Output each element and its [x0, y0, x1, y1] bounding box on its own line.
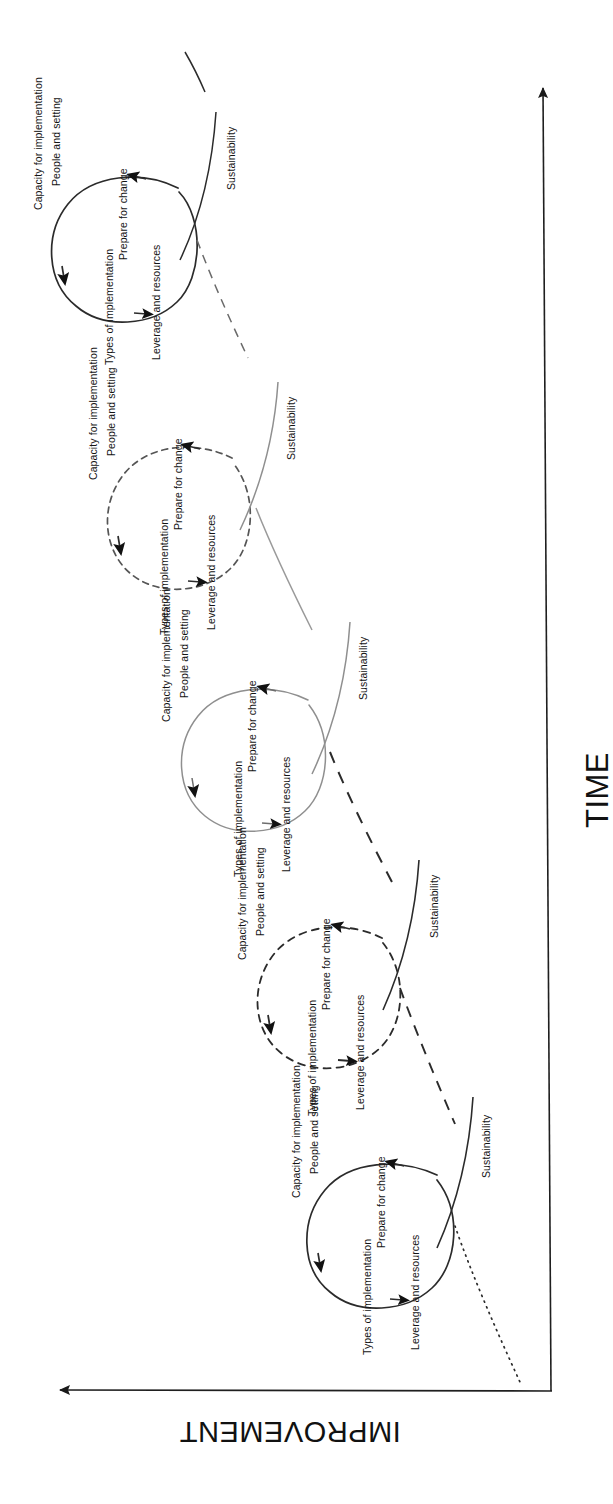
cycle-2-label-leverage: Leverage and resources: [205, 515, 217, 630]
cycle-1-sustainability-stub: [185, 52, 205, 92]
cycle-3-label-people: People and setting: [178, 609, 190, 698]
cycle-2-label-prepare: Prepare for change: [172, 438, 184, 530]
improvement-axis-line: [60, 1390, 552, 1391]
cycle-4-label-prepare: Prepare for change: [320, 918, 332, 1010]
cycle-5-sustainability-dotted-tail: [455, 1226, 520, 1382]
cycle-1-arrow-bottom: [134, 313, 147, 314]
cycle-4-label-leverage: Leverage and resources: [354, 995, 366, 1110]
cycle-2-label-sustainability: Sustainability: [285, 397, 297, 460]
cycle-1-arrow-left: [62, 266, 64, 278]
cycle-4-label-people: People and setting: [254, 847, 266, 936]
cycle-4-label-sustainability: Sustainability: [428, 875, 440, 938]
cycle-4-sustainability-line: [383, 860, 419, 1010]
cycle-3-arrow-left: [192, 778, 194, 790]
axis-group: [60, 88, 552, 1391]
cycle-3-sustainability-dashed-tail: [330, 752, 393, 884]
cycle-5-label-prepare: Prepare for change: [375, 1156, 387, 1248]
cycle-5-label-capacity: Capacity for implementation: [290, 1065, 302, 1198]
cycle-1-label-people: People and setting: [50, 97, 62, 186]
cycle-2-label-people: People and setting: [105, 367, 117, 456]
cycle-1-sustainability-dashed-tail: [197, 240, 248, 358]
cycle-5-arrow-bottom: [390, 1299, 403, 1300]
cycle-2-label-capacity: Capacity for implementation: [87, 347, 99, 480]
cycle-1-label-sustainability: Sustainability: [225, 127, 237, 190]
cycle-4-arrow-bottom: [338, 1060, 351, 1061]
cycle-5-label-types: Types of implementation: [361, 1239, 373, 1355]
cycle-4-arrow-left: [268, 1015, 270, 1027]
cycle-3-sustainability-line: [312, 622, 350, 774]
axis-label-time: TIME: [580, 752, 613, 828]
cycle-1-label-leverage: Leverage and resources: [150, 245, 162, 360]
cycle-4-sustainability-dashed-tail: [400, 988, 455, 1124]
cycle-2-arrow-bottom: [188, 581, 201, 582]
cycle-2-sustainability-line: [240, 382, 278, 530]
cycle-3-label-prepare: Prepare for change: [246, 680, 258, 772]
cycle-3-arrow-bottom: [262, 823, 275, 824]
cycle-3-label-capacity: Capacity for implementation: [160, 589, 172, 722]
cycle-5-label-sustainability: Sustainability: [480, 1115, 492, 1178]
cycle-5-arrow-left: [318, 1253, 320, 1265]
cycle-4-label-capacity: Capacity for implementation: [236, 827, 248, 960]
cycle-1-label-types: Types of implementation: [103, 249, 115, 365]
axis-label-improvement: IMPROVEMENT: [160, 1415, 420, 1448]
cycle-1-sustainability-line: [180, 112, 216, 260]
cycle-2-arrow-left: [118, 536, 120, 548]
cycle-1-label-prepare: Prepare for change: [117, 168, 129, 260]
cycle-3-label-leverage: Leverage and resources: [280, 757, 292, 872]
cycle-5-label-people: People and setting: [308, 1085, 320, 1174]
cycle-5-label-leverage: Leverage and resources: [409, 1235, 421, 1350]
cycle-1-label-capacity: Capacity for implementation: [32, 77, 44, 210]
cycle-3-label-sustainability: Sustainability: [357, 637, 369, 700]
cycle-2-sustainability-dashed-tail: [256, 508, 312, 630]
time-axis-line: [543, 88, 551, 1391]
